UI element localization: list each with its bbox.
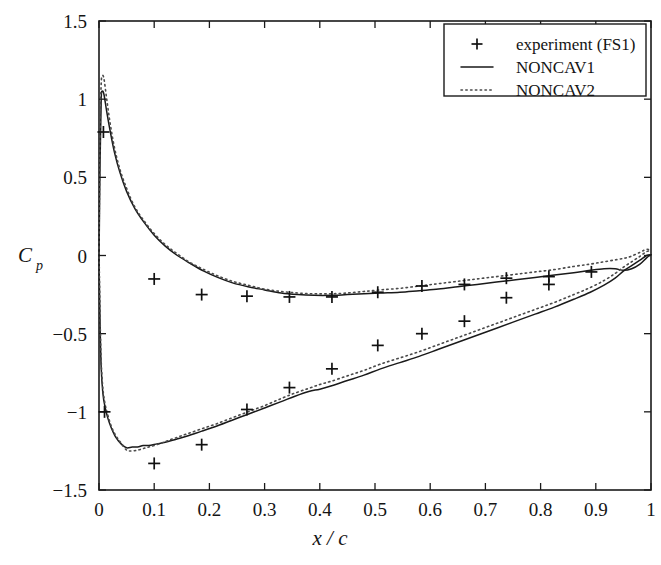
x-tick-label: 0.5 [363,499,387,520]
figure-container: 1.510.50−0.5−1−1.5 00.10.20.30.40.50.60.… [0,0,661,565]
x-tick-label: 0.3 [253,499,277,520]
y-tick-label: 1 [78,89,88,110]
y-tick-label: −1.5 [53,480,87,501]
legend-label: NONCAV1 [516,58,595,77]
x-tick-label: 0.2 [198,499,222,520]
y-axis-title-base: C [18,243,33,267]
x-axis-title: x / c [312,526,349,550]
y-axis-title-subscript: p [35,258,43,273]
y-tick-label: −1 [67,402,87,423]
x-tick-label: 0.9 [584,499,608,520]
cp-distribution-chart: 1.510.50−0.5−1−1.5 00.10.20.30.40.50.60.… [0,0,661,565]
y-tick-label: −0.5 [53,324,87,345]
y-tick-label: 1.5 [63,11,87,32]
legend-label: NONCAV2 [516,81,595,100]
x-tick-label: 0 [94,499,104,520]
y-tick-label: 0.5 [63,167,87,188]
x-tick-label: 0.8 [529,499,553,520]
x-tick-label: 0.1 [142,499,166,520]
x-tick-label: 1 [646,499,656,520]
x-tick-label: 0.4 [308,499,332,520]
legend-label: experiment (FS1) [516,35,635,54]
y-tick-label: 0 [78,246,88,267]
x-tick-label: 0.7 [474,499,498,520]
chart-legend: experiment (FS1)NONCAV1NONCAV2 [444,24,646,100]
x-tick-label: 0.6 [418,499,442,520]
